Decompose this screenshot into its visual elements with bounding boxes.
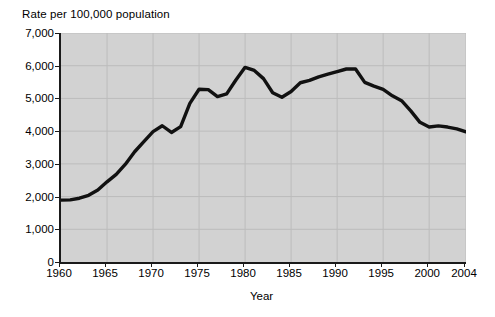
chart-figure: Rate per 100,000 population 7,0006,0005,… <box>0 0 495 317</box>
x-tick-mark <box>381 263 382 267</box>
x-tick-label: 1980 <box>230 267 256 279</box>
x-tick-mark <box>197 263 198 267</box>
x-tick-label: 2004 <box>451 267 477 279</box>
x-tick-label: 1990 <box>322 267 348 279</box>
x-tick-label: 1965 <box>92 267 118 279</box>
x-tick-label: 2000 <box>414 267 440 279</box>
x-tick-label: 1975 <box>184 267 210 279</box>
x-tick-label: 1970 <box>138 267 164 279</box>
x-tick-mark <box>289 263 290 267</box>
x-tick-label: 1960 <box>46 267 72 279</box>
x-tick-mark <box>105 263 106 267</box>
x-tick-mark <box>464 263 465 267</box>
x-tick-mark <box>427 263 428 267</box>
x-tick-label: 1985 <box>276 267 302 279</box>
x-axis-tick-labels: 1960196519701975198019851990199520002004 <box>0 0 495 317</box>
x-tick-mark <box>335 263 336 267</box>
x-tick-mark <box>151 263 152 267</box>
x-tick-label: 1995 <box>368 267 394 279</box>
x-tick-mark <box>59 263 60 267</box>
x-axis-caption: Year <box>59 290 464 302</box>
x-tick-mark <box>243 263 244 267</box>
